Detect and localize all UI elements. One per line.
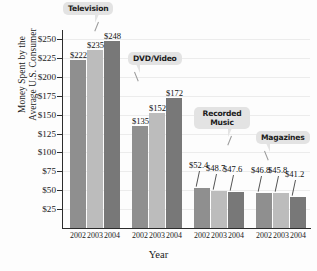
x-axis-tick-label: 2004 — [163, 231, 185, 240]
bar — [104, 41, 120, 228]
y-axis-tick-label: $50 — [42, 185, 56, 195]
x-axis-tick-label: 2004 — [287, 231, 309, 240]
y-axis-tick-label: $75 — [42, 166, 56, 176]
callout-label-line1: Recorded — [203, 109, 242, 118]
bar — [87, 50, 103, 228]
bar-value-label: $152 — [147, 103, 168, 113]
y-axis-tick-label: $25 — [42, 204, 56, 214]
bar-chart: Money Spent by the Average U.S. Consumer… — [0, 0, 317, 271]
y-axis-tick-label: $200 — [38, 72, 56, 82]
x-axis-tick-label: 2004 — [225, 231, 247, 240]
y-axis-tick-label: $175 — [38, 91, 56, 101]
x-axis-line — [62, 228, 311, 229]
bar — [149, 113, 165, 228]
bar-value-label: $222 — [68, 50, 89, 60]
y-axis-tick-label: $225 — [38, 53, 56, 63]
bar — [70, 60, 86, 228]
callout-television: Television — [63, 2, 113, 15]
bar — [273, 193, 289, 228]
bar — [290, 197, 306, 228]
bar-value-label: $47.6 — [223, 164, 242, 174]
callout-label: DVD/Video — [133, 54, 177, 63]
bar — [256, 193, 272, 228]
bar-value-label: $135 — [130, 116, 151, 126]
y-axis-tick-label: $150 — [38, 110, 56, 120]
callout-label: Magazines — [261, 133, 305, 142]
bars-layer — [62, 30, 311, 228]
bar — [166, 98, 182, 228]
bar-value-label: $172 — [164, 88, 185, 98]
bar-value-label: $235 — [85, 40, 106, 50]
y-axis-tick-label: $100 — [38, 147, 56, 157]
y-axis-tick-label: $125 — [38, 129, 56, 139]
bar-value-label: $41.2 — [285, 169, 304, 179]
x-axis-title: Year — [0, 249, 317, 260]
y-axis-tick-label: $250 — [38, 34, 56, 44]
callout-label: Television — [68, 4, 108, 13]
callout-recorded-music: RecordedMusic — [194, 107, 250, 129]
y-axis-tick-labels: $25$50$75$100$125$150$175$200$225$250 — [0, 0, 56, 271]
x-axis-tick-label: 2004 — [101, 231, 123, 240]
bar — [211, 191, 227, 228]
bar — [132, 126, 148, 228]
bar — [228, 192, 244, 228]
callout-label-line2: Music — [199, 118, 245, 127]
bar-value-label: $248 — [102, 31, 123, 41]
bar — [194, 188, 210, 228]
